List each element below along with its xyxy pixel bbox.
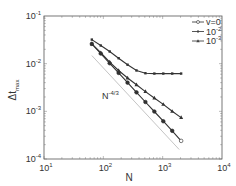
plot-frame (44, 16, 222, 159)
y-axis-label-text: Δtmax (7, 80, 20, 101)
legend-label: 10-3 (206, 35, 222, 46)
y-tick-label: 10-2 (26, 58, 42, 69)
square-marker (162, 72, 164, 74)
x-tick-label: 103 (158, 162, 172, 173)
x-tick-label: 101 (39, 162, 53, 173)
circle-marker (144, 100, 148, 104)
circle-marker (126, 81, 130, 85)
y-tick-label: 10-1 (26, 10, 42, 21)
y-tick-label: 10-3 (26, 105, 42, 116)
circle-marker (179, 139, 183, 143)
legend: v=010-210-3 (192, 17, 222, 46)
square-marker (171, 72, 173, 74)
x-tick-label: 102 (99, 162, 113, 173)
square-marker (100, 44, 102, 46)
legend-circle-icon (197, 21, 200, 24)
square-marker (126, 64, 128, 66)
square-marker (135, 69, 137, 71)
series-2 (90, 42, 183, 119)
circle-marker (135, 91, 139, 95)
slope-annotation: N-4/3 (102, 90, 120, 101)
axes (44, 16, 222, 159)
square-marker (91, 38, 93, 40)
x-tick-label: 104 (217, 162, 231, 173)
square-marker (144, 72, 146, 74)
square-marker (117, 57, 119, 59)
square-marker (180, 72, 182, 74)
square-marker (153, 72, 155, 74)
circle-marker (170, 129, 174, 133)
legend-square-icon (197, 31, 199, 33)
circle-marker (153, 110, 157, 114)
tick-labels: 10110210310410-410-310-210-1 (26, 10, 232, 173)
x-axis-label: N (125, 172, 132, 183)
square-marker (108, 50, 110, 52)
tick-marks (44, 16, 222, 159)
circle-marker (161, 119, 165, 123)
log-log-chart: 10110210310410-410-310-210-1 v=010-210-3… (0, 0, 236, 186)
series-line (92, 44, 181, 118)
slope-label: N-4/3 (102, 90, 120, 101)
y-axis-label: Δtmax (7, 80, 20, 101)
